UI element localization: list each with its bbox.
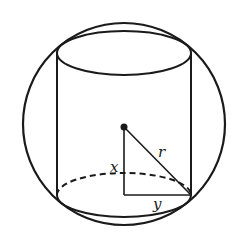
sphere-center-point xyxy=(121,124,128,131)
label-y: y xyxy=(152,195,162,213)
cylinder-in-sphere-diagram: r x y xyxy=(0,0,242,247)
cylinder-top-ellipse xyxy=(57,31,191,75)
label-r: r xyxy=(158,143,166,161)
triangle-hypotenuse-r xyxy=(124,127,191,195)
label-x: x xyxy=(110,158,119,176)
diagram-canvas: r x y xyxy=(0,0,242,247)
